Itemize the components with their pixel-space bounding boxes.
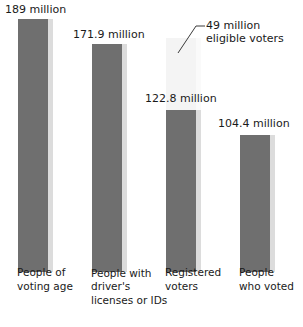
bar-people-with-licenses [92,44,122,272]
category-label-line: licenses or IDs [91,294,175,308]
category-label-line: People of [17,266,101,280]
bar-group-people-with-licenses [92,44,127,272]
value-label-people-who-voted: 104.4 million [218,117,290,130]
category-label-line: People [239,266,303,280]
annotation-line-2: eligible voters [206,32,284,46]
category-label-registered-voters: Registered voters [165,266,249,293]
category-label-line: voting age [17,280,101,294]
category-label-line: voters [165,280,249,294]
bar-registered-voters [166,110,196,272]
category-label-line: Registered [165,266,249,280]
value-label-people-of-voting-age: 189 million [5,3,66,16]
bar-people-who-voted [240,135,270,272]
bar-group-registered-voters [166,38,201,272]
bar-group-people-of-voting-age [18,19,53,272]
category-label-line: driver's [91,280,175,294]
value-label-people-with-licenses: 171.9 million [73,28,145,41]
category-label-people-of-voting-age: People of voting age [17,266,101,293]
value-label-registered-voters: 122.8 million [145,92,217,105]
bar-group-people-who-voted [240,135,275,272]
annotation-line-1: 49 million [206,19,260,33]
category-label-people-with-licenses: People with driver's licenses or IDs [91,267,175,308]
bar-chart: 189 million 171.9 million 122.8 million … [0,0,303,327]
category-label-people-who-voted: People who voted [239,266,303,293]
bar-people-of-voting-age [18,19,48,272]
category-label-line: People with [91,267,175,281]
category-label-line: who voted [239,280,303,294]
